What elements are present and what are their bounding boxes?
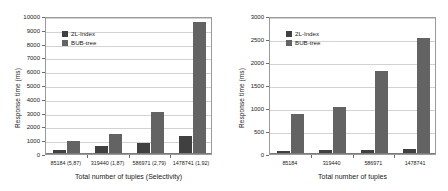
gridline [270, 18, 435, 19]
y-tick-label: 9000 [9, 28, 40, 34]
x-tick-label: 319440 [323, 160, 341, 166]
x-tick-label: 1478741 (1,92) [173, 160, 210, 166]
axis-baseline [270, 153, 435, 154]
y-tick-label: 6000 [9, 69, 40, 75]
gridline [270, 110, 435, 111]
y-tick-mark [42, 114, 45, 115]
legend: 2L-IndexBUB-tree [62, 30, 96, 46]
gridline [46, 128, 211, 129]
y-tick-mark [266, 40, 269, 41]
bar-2l-index-0 [53, 150, 66, 153]
y-tick-label: 3000 [9, 111, 40, 117]
bar-2l-index-3 [403, 149, 416, 153]
gridline [46, 73, 211, 74]
y-tick-mark [42, 155, 45, 156]
y-tick-mark [42, 141, 45, 142]
chart-panel-right: Response time (ms)0500100015002000250030… [224, 0, 448, 191]
y-tick-label: 5000 [9, 83, 40, 89]
y-tick-mark [266, 155, 269, 156]
y-tick-label: 7000 [9, 55, 40, 61]
y-tick-mark [42, 31, 45, 32]
y-tick-mark [266, 109, 269, 110]
x-tick-mark [311, 155, 312, 158]
figure-container: Response time (ms)0100020003000400050006… [0, 0, 448, 191]
y-tick-mark [42, 45, 45, 46]
y-tick-mark [42, 100, 45, 101]
legend-item: BUB-tree [286, 39, 320, 46]
x-tick-mark [129, 155, 130, 158]
x-tick-label: 586971 [364, 160, 382, 166]
bar-bub-tree-0 [67, 141, 80, 153]
x-tick-label: 1478741 [405, 160, 426, 166]
x-axis-title: Total number of tuples (Selectivity) [75, 173, 182, 180]
axis-baseline [46, 153, 211, 154]
chart-panel-left: Response time (ms)0100020003000400050006… [0, 0, 224, 191]
y-tick-label: 10000 [9, 14, 40, 20]
x-tick-label: 319440 (1,87) [91, 160, 125, 166]
y-tick-label: 1500 [233, 83, 264, 89]
y-tick-label: 2000 [9, 124, 40, 130]
y-tick-label: 1000 [9, 138, 40, 144]
y-tick-label: 0 [233, 152, 264, 158]
gridline [46, 115, 211, 116]
y-tick-mark [42, 17, 45, 18]
y-tick-mark [266, 132, 269, 133]
bar-bub-tree-1 [109, 134, 122, 153]
x-tick-mark [87, 155, 88, 158]
bar-bub-tree-3 [417, 38, 430, 153]
bar-2l-index-0 [277, 151, 290, 153]
gridline [46, 59, 211, 60]
legend-swatch-icon [286, 40, 292, 46]
bar-bub-tree-3 [193, 22, 206, 153]
legend-swatch-icon [286, 31, 292, 37]
y-tick-label: 2500 [233, 37, 264, 43]
legend-item: 2L-Index [62, 30, 96, 37]
x-tick-mark [353, 155, 354, 158]
legend-label: BUB-tree [71, 39, 96, 46]
legend-label: 2L-Index [71, 30, 95, 37]
bar-bub-tree-2 [375, 71, 388, 153]
bar-2l-index-1 [319, 150, 332, 153]
bar-bub-tree-0 [291, 114, 304, 153]
y-tick-label: 0 [9, 152, 40, 158]
x-axis-title: Total number of tuples [318, 173, 387, 180]
legend-item: 2L-Index [286, 30, 320, 37]
y-axis-title: Response time (ms) [238, 68, 245, 128]
y-tick-label: 2000 [233, 60, 264, 66]
bar-2l-index-3 [179, 136, 192, 153]
y-tick-mark [266, 63, 269, 64]
y-tick-label: 1000 [233, 106, 264, 112]
bar-bub-tree-1 [333, 107, 346, 153]
y-tick-mark [266, 86, 269, 87]
y-tick-mark [266, 17, 269, 18]
legend-label: BUB-tree [295, 39, 320, 46]
x-tick-label: 586971 (2,79) [133, 160, 167, 166]
gridline [270, 87, 435, 88]
x-tick-mark [394, 155, 395, 158]
gridline [46, 87, 211, 88]
legend-item: BUB-tree [62, 39, 96, 46]
gridline [46, 101, 211, 102]
gridline [270, 64, 435, 65]
legend-swatch-icon [62, 31, 68, 37]
y-tick-mark [42, 86, 45, 87]
y-tick-mark [42, 72, 45, 73]
y-tick-label: 3000 [233, 14, 264, 20]
bar-2l-index-2 [361, 150, 374, 153]
bar-2l-index-1 [95, 146, 108, 153]
legend-swatch-icon [62, 40, 68, 46]
bar-2l-index-2 [137, 143, 150, 153]
x-tick-mark [170, 155, 171, 158]
y-tick-mark [42, 127, 45, 128]
legend-label: 2L-Index [295, 30, 319, 37]
y-tick-label: 4000 [9, 97, 40, 103]
y-tick-label: 8000 [9, 42, 40, 48]
bar-bub-tree-2 [151, 112, 164, 153]
y-tick-label: 500 [233, 129, 264, 135]
legend: 2L-IndexBUB-tree [286, 30, 320, 46]
x-tick-label: 85184 (5,87) [51, 160, 82, 166]
x-tick-label: 85184 [282, 160, 297, 166]
gridline [46, 18, 211, 19]
y-tick-mark [42, 58, 45, 59]
